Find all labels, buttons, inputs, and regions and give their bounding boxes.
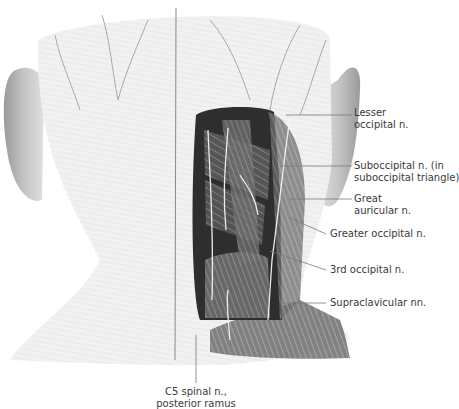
- label-line: Suboccipital n. (in: [354, 160, 459, 172]
- label-great-auricular: Great auricular n.: [354, 193, 411, 217]
- label-third-occipital: 3rd occipital n.: [330, 264, 404, 276]
- label-line: 3rd occipital n.: [330, 264, 404, 276]
- label-line: C5 spinal n.,: [156, 386, 236, 398]
- label-line: Supraclavicular nn.: [330, 297, 426, 309]
- label-greater-occipital: Greater occipital n.: [330, 228, 426, 240]
- label-lesser-occipital: Lesser occipital n.: [354, 107, 409, 131]
- label-supraclavicular: Supraclavicular nn.: [330, 297, 426, 309]
- label-c5-spinal: C5 spinal n., posterior ramus: [156, 386, 236, 409]
- label-suboccipital: Suboccipital n. (in suboccipital triangl…: [354, 160, 459, 184]
- label-line: Greater occipital n.: [330, 228, 426, 240]
- left-ear: [4, 68, 44, 201]
- label-line: Great: [354, 193, 411, 205]
- label-line: suboccipital triangle): [354, 172, 459, 184]
- label-line: occipital n.: [354, 119, 409, 131]
- label-line: posterior ramus: [156, 398, 236, 409]
- label-line: auricular n.: [354, 205, 411, 217]
- label-line: Lesser: [354, 107, 409, 119]
